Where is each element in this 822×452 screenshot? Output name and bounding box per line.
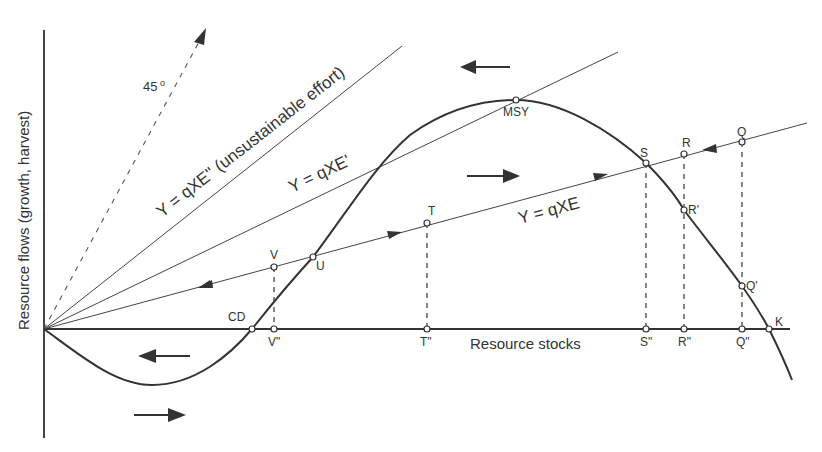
label-t: T (428, 204, 436, 218)
label-s-dd: S" (640, 335, 652, 349)
point-v (271, 264, 277, 270)
arrow-left-bottom-icon (138, 349, 156, 363)
label-r-prime: R' (688, 203, 699, 217)
point-r-prime (681, 207, 687, 213)
label-v: V (270, 248, 278, 262)
arrowhead-right-t-icon (387, 231, 402, 239)
label-q-dd: Q" (736, 335, 750, 349)
point-cd (249, 326, 255, 332)
label-u: U (316, 259, 325, 273)
arrow-right-mid-icon (503, 169, 520, 183)
arrowhead-left-r-icon (702, 144, 717, 153)
point-s-dd (643, 326, 649, 332)
point-q-prime (739, 283, 745, 289)
line-unsustainable-effort (44, 46, 402, 329)
label-45: 45 (143, 79, 157, 94)
label-r: R (682, 136, 691, 150)
label-unsustainable-effort: Y = qXE'' (unsustainable effort) (153, 63, 348, 222)
label-q-prime: Q' (746, 279, 758, 293)
point-t-dd (424, 326, 430, 332)
label-k: K (775, 315, 783, 329)
arrowhead-left-qxe-icon (198, 280, 213, 288)
label-degree-symbol: o (160, 78, 165, 88)
x-axis-label: Resource stocks (470, 335, 581, 352)
point-k (766, 326, 772, 332)
line-qxe-prime (44, 52, 618, 329)
point-q-dd (739, 326, 745, 332)
diagram-canvas: Resource flows (growth, harvest) Resourc… (0, 0, 822, 452)
label-qxe-prime: Y = qXE' (286, 151, 354, 196)
label-s: S (640, 146, 648, 160)
line-45-degree (44, 40, 200, 329)
resource-dynamics-diagram: Resource flows (growth, harvest) Resourc… (0, 0, 822, 452)
point-r (681, 151, 687, 157)
label-r-dd: R" (678, 335, 691, 349)
arrow-left-top-icon (460, 60, 476, 74)
label-q: Q (737, 125, 746, 139)
point-s (643, 160, 649, 166)
arrow-right-bottom-icon (168, 408, 186, 422)
label-msy: MSY (503, 105, 529, 119)
y-axis-label: Resource flows (growth, harvest) (15, 111, 32, 330)
point-t (424, 220, 430, 226)
point-v-dd (271, 326, 277, 332)
point-msy (513, 97, 519, 103)
arrowhead-45-icon (194, 28, 206, 45)
label-t-dd: T" (420, 335, 432, 349)
point-q (739, 139, 745, 145)
label-v-dd: V" (268, 335, 280, 349)
label-cd: CD (228, 310, 246, 324)
point-r-dd (681, 326, 687, 332)
